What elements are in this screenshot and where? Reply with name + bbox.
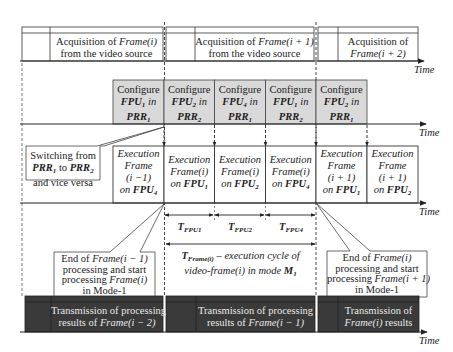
configure-label: ConfigureFPU2 inPRR1	[316, 84, 367, 126]
transmission-label-2: Transmission of Frame(i) results	[338, 305, 419, 329]
time-label-4: Time	[419, 335, 439, 346]
execution-label: ExecutionFrame(i −1)on FPU4	[113, 148, 164, 199]
time-label-3: Time	[419, 206, 439, 217]
execution-label: ExecutionFrame(i)on FPU1	[164, 154, 215, 193]
configure-label: ConfigureFPU2 inPRR2	[164, 84, 215, 126]
execution-label: ExecutionFrame(i)on FPU2	[215, 154, 266, 193]
execution-label: ExecutionFrame(i + 1)on FPU2	[367, 148, 418, 199]
duration-label-fpu2: TFPU2	[215, 221, 265, 236]
transmission-label-0: Transmission of processing results of Fr…	[51, 305, 163, 329]
duration-label-fpu4: TFPU4	[266, 221, 316, 236]
configure-to-execution-arrows	[164, 125, 367, 146]
configure-label: ConfigureFPU1 inPRR1	[113, 84, 164, 126]
configure-label: ConfigureFPU4 inPRR1	[215, 84, 266, 126]
acquisition-label-2: Acquisition of Frame(i + 2)	[338, 36, 418, 60]
transmission-label-1: Transmission of processing results of Fr…	[196, 305, 315, 329]
duration-label-fpu1: TFPU1	[165, 221, 214, 236]
acquisition-label-0: Acquisition of Frame(i) from the video s…	[50, 36, 163, 60]
cycle-label: TFrame(i) – execution cycle of video-fra…	[165, 250, 316, 280]
acquisition-label-1: Acquisition of Frame(i + 1) from the vid…	[195, 36, 314, 60]
end-callout-right-text: End of Frame(i) processing and start pro…	[327, 253, 427, 295]
switch-callout-text: Switching from PRR1 to PRR2 and vice ver…	[26, 150, 100, 189]
execution-label: ExecutionFrame(i + 1)on FPU1	[316, 148, 367, 199]
time-label-2: Time	[419, 127, 439, 138]
configure-label: ConfigureFPU1 inPRR2	[266, 84, 317, 126]
execution-label: ExecutionFrame(i)on FPU4	[266, 154, 317, 193]
end-callout-left-text: End of Frame(i − 1) processing and start…	[54, 254, 155, 296]
time-label-1: Time	[414, 64, 434, 75]
